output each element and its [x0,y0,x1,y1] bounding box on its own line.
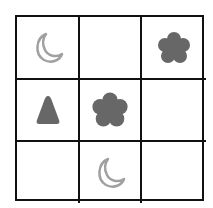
cell-r1-c3 [142,17,206,80]
crescent-moon-icon [90,153,130,193]
crescent-moon-icon [28,28,68,68]
cell-r2-c2 [80,80,142,142]
puzzle-grid [15,15,204,201]
cell-r2-c1 [17,80,80,142]
cell-r3-c2 [80,142,142,203]
cell-r1-c1 [17,17,80,80]
cell-r3-c1 [17,142,80,203]
cell-r2-c3 [142,80,206,142]
triangle-icon [28,90,68,130]
flower-icon [154,28,194,68]
flower-icon [88,88,132,132]
cell-r3-c3 [142,142,206,203]
cell-r1-c2 [80,17,142,80]
